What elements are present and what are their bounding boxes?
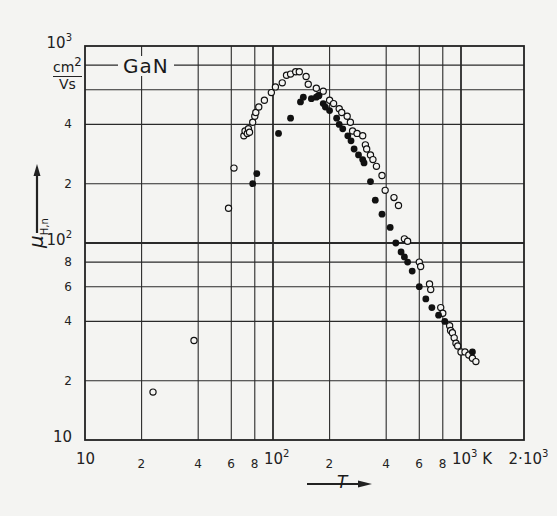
filled-data-point bbox=[348, 137, 355, 144]
y-axis-symbol: μ bbox=[24, 235, 48, 248]
data-points bbox=[150, 69, 479, 396]
unit-numerator: cm bbox=[53, 59, 74, 75]
y-axis-arrowhead-icon bbox=[34, 164, 41, 176]
open-data-point bbox=[379, 172, 385, 178]
filled-data-point bbox=[372, 197, 379, 204]
y-tick-label: 103 bbox=[42, 36, 72, 51]
open-data-point bbox=[473, 359, 479, 365]
open-data-point bbox=[305, 81, 311, 87]
x-axis-label: T bbox=[337, 472, 347, 492]
filled-data-point bbox=[351, 146, 358, 153]
filled-data-point bbox=[367, 178, 374, 185]
open-data-point bbox=[382, 187, 388, 193]
filled-data-point bbox=[469, 349, 476, 356]
open-data-point bbox=[272, 84, 278, 90]
open-data-point bbox=[313, 85, 319, 91]
open-data-point bbox=[268, 90, 274, 96]
x-tick-label: 2·103 bbox=[509, 452, 549, 467]
filled-data-point bbox=[404, 259, 411, 266]
y-tick-label: 4 bbox=[42, 118, 72, 130]
filled-data-point bbox=[339, 125, 346, 132]
open-data-point bbox=[250, 119, 256, 125]
filled-data-point bbox=[253, 170, 260, 177]
unit-exponent: 2 bbox=[74, 55, 81, 69]
x-tick-label: 8 bbox=[439, 458, 447, 470]
chart-title: GaN bbox=[118, 56, 174, 76]
open-data-point bbox=[373, 163, 379, 169]
filled-data-point bbox=[361, 160, 368, 167]
y-tick-label: 8 bbox=[42, 256, 72, 268]
open-data-point bbox=[364, 146, 370, 152]
filled-data-point bbox=[249, 180, 256, 187]
x-tick-label: 4 bbox=[194, 458, 202, 470]
open-data-point bbox=[330, 101, 336, 107]
open-data-point bbox=[428, 287, 434, 293]
y-tick-label: 6 bbox=[42, 281, 72, 293]
open-data-point bbox=[347, 119, 353, 125]
x-tick-label: 6 bbox=[227, 458, 235, 470]
chart-plot bbox=[0, 0, 557, 516]
grid-lines bbox=[85, 46, 524, 440]
x-axis-arrowhead-icon bbox=[358, 481, 372, 488]
open-data-point bbox=[344, 113, 350, 119]
filled-data-point bbox=[379, 211, 386, 218]
open-data-point bbox=[418, 263, 424, 269]
y-axis-subscript: H,n bbox=[39, 218, 50, 235]
y-axis-label: μH,n bbox=[24, 218, 50, 248]
open-data-point bbox=[246, 129, 252, 135]
y-tick-label: 4 bbox=[42, 315, 72, 327]
open-data-point bbox=[279, 80, 285, 86]
open-data-point bbox=[303, 73, 309, 79]
filled-data-point bbox=[416, 283, 423, 290]
open-data-point bbox=[191, 337, 197, 343]
open-data-point bbox=[405, 238, 411, 244]
open-data-point bbox=[296, 69, 302, 75]
open-data-point bbox=[360, 133, 366, 139]
filled-data-point bbox=[287, 115, 294, 122]
filled-data-point bbox=[387, 224, 394, 231]
filled-data-point bbox=[326, 107, 333, 114]
filled-data-point bbox=[409, 268, 416, 275]
filled-data-point bbox=[333, 115, 340, 122]
open-data-point bbox=[231, 165, 237, 171]
unit-denominator: Vs bbox=[59, 76, 76, 92]
filled-data-point bbox=[300, 94, 307, 101]
x-tick-label: 2 bbox=[326, 458, 334, 470]
open-data-point bbox=[391, 195, 397, 201]
open-data-point bbox=[150, 389, 156, 395]
x-tick-label: 2 bbox=[138, 458, 146, 470]
filled-data-point bbox=[315, 92, 322, 99]
x-tick-label: 102 bbox=[264, 452, 289, 467]
open-data-point bbox=[455, 343, 461, 349]
open-data-point bbox=[256, 104, 262, 110]
y-tick-label: 2 bbox=[42, 375, 72, 387]
x-tick-label: 10 bbox=[76, 452, 95, 467]
filled-data-point bbox=[435, 312, 442, 319]
open-data-point bbox=[261, 97, 267, 103]
filled-data-point bbox=[275, 130, 282, 137]
open-data-point bbox=[395, 202, 401, 208]
x-tick-label: 8 bbox=[251, 458, 259, 470]
y-tick-label: 2 bbox=[42, 178, 72, 190]
open-data-point bbox=[370, 157, 376, 163]
y-axis-unit: cm2 Vs bbox=[53, 56, 82, 92]
x-tick-label: 103 K bbox=[452, 452, 492, 467]
filled-data-point bbox=[392, 240, 399, 247]
filled-data-point bbox=[441, 318, 448, 325]
filled-data-point bbox=[422, 296, 429, 303]
x-tick-label: 4 bbox=[382, 458, 390, 470]
x-tick-label: 6 bbox=[415, 458, 423, 470]
open-data-point bbox=[225, 205, 231, 211]
y-tick-label: 10 bbox=[42, 430, 72, 445]
filled-data-point bbox=[428, 304, 435, 311]
